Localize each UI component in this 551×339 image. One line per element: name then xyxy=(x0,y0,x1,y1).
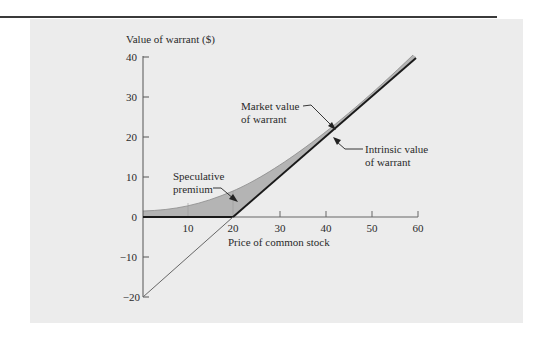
arrowhead-icon xyxy=(333,137,341,145)
svg-text:0: 0 xyxy=(132,211,138,223)
svg-text:30: 30 xyxy=(126,91,138,103)
intrinsic-value-line xyxy=(233,58,416,217)
x-ticks xyxy=(280,211,418,217)
speculative-premium-label-line2: premium xyxy=(173,183,213,195)
svg-text:60: 60 xyxy=(413,222,425,234)
svg-text:20: 20 xyxy=(126,131,138,143)
svg-text:40: 40 xyxy=(126,51,138,63)
intrinsic-value-leader xyxy=(337,142,363,149)
intrinsic-value-label-line2: of warrant xyxy=(365,156,411,168)
market-value-leader xyxy=(303,105,333,127)
speculative-premium-label-line1: Speculative xyxy=(173,170,224,182)
svg-text:10: 10 xyxy=(126,171,138,183)
svg-text:−10: −10 xyxy=(120,251,138,263)
market-value-label-line2: of warrant xyxy=(241,113,287,125)
x-tick-labels: 10 20 30 40 50 60 xyxy=(183,222,425,234)
market-value-label-line1: Market value xyxy=(241,100,299,112)
x-axis-title: Price of common stock xyxy=(228,236,330,248)
y-ticks xyxy=(143,57,149,297)
intrinsic-value-label-line1: Intrinsic value xyxy=(365,143,428,155)
y-tick-labels: 40 30 20 10 0 −10 −20 xyxy=(120,51,141,303)
y-axis-title: Value of warrant ($) xyxy=(126,33,215,46)
svg-text:30: 30 xyxy=(275,222,287,234)
svg-text:40: 40 xyxy=(321,222,333,234)
svg-text:−20: −20 xyxy=(123,291,141,303)
svg-text:50: 50 xyxy=(367,222,379,234)
svg-text:10: 10 xyxy=(183,222,195,234)
svg-text:20: 20 xyxy=(228,222,240,234)
warrant-value-chart: 40 30 20 10 0 −10 −20 10 20 30 40 50 60 … xyxy=(0,0,551,339)
